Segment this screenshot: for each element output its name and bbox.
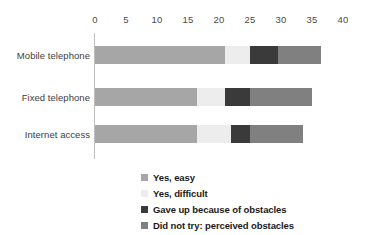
bar-row-mobile-telephone — [95, 46, 321, 64]
legend-item-yes-easy: Yes, easy — [141, 170, 370, 185]
bar-row-internet-access — [95, 125, 303, 143]
stacked-bar-chart: 0 5 10 15 20 25 30 35 40 Mobile telephon… — [0, 0, 370, 235]
bar-segment — [95, 125, 197, 143]
bar-segment — [278, 46, 321, 64]
legend-label-yes-easy: Yes, easy — [153, 172, 195, 183]
legend-item-yes-difficult: Yes, difficult — [141, 186, 370, 201]
legend-label-gave-up: Gave up because of obstacles — [153, 204, 286, 215]
legend-item-gave-up: Gave up because of obstacles — [141, 202, 370, 217]
legend-item-did-not-try: Did not try: perceived obstacles — [141, 218, 370, 233]
legend-label-yes-difficult: Yes, difficult — [153, 188, 208, 199]
bar-segment — [250, 46, 278, 64]
bar-segment — [250, 125, 303, 143]
bar-segment — [225, 88, 250, 106]
legend-swatch-yes-difficult — [141, 190, 148, 197]
legend-swatch-yes-easy — [141, 174, 148, 181]
legend: Yes, easy Yes, difficult Gave up because… — [141, 170, 370, 234]
bar-segment — [197, 125, 231, 143]
legend-label-did-not-try: Did not try: perceived obstacles — [153, 220, 294, 231]
category-label-fixed-telephone: Fixed telephone — [4, 92, 90, 103]
bar-row-fixed-telephone — [95, 88, 312, 106]
category-label-internet-access: Internet access — [4, 129, 90, 140]
bar-segment — [95, 88, 197, 106]
bar-segment — [231, 125, 250, 143]
bar-segment — [250, 88, 312, 106]
legend-swatch-gave-up — [141, 206, 148, 213]
bar-segment — [197, 88, 225, 106]
legend-swatch-did-not-try — [141, 222, 148, 229]
plot-area: Mobile telephone Fixed telephone Interne… — [0, 0, 370, 160]
bar-segment — [225, 46, 250, 64]
bar-segment — [95, 46, 225, 64]
category-label-mobile-telephone: Mobile telephone — [4, 50, 90, 61]
